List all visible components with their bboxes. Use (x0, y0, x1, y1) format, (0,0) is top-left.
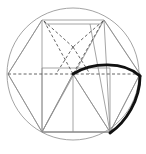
bold-lens-lower-arc (110, 76, 140, 133)
dashed-right-upper-to-apex (73, 21, 103, 47)
geometric-figure (0, 0, 146, 154)
figure-canvas (0, 0, 146, 154)
dashed-apex-down-left (56, 47, 73, 74)
line-left-vertex-to-upper-left (8, 20, 42, 74)
inscribed-triangle (42, 74, 110, 132)
bold-lens-arc (73, 65, 140, 133)
dashed-left-upper-to-apex (44, 21, 73, 47)
dashed-left-upper-to-center (44, 21, 73, 74)
radiating-construction-lines (8, 20, 140, 132)
